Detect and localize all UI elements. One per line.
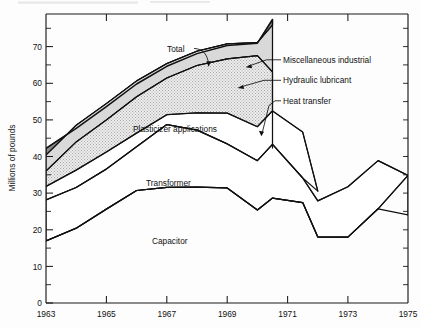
y-tick-60: 60 (33, 78, 43, 88)
x-tick-1965: 1965 (97, 309, 116, 319)
x-tick-1971: 1971 (278, 309, 297, 319)
y-tick-40: 40 (33, 152, 43, 162)
label-miscellaneous-industrial: Miscellaneous industrial (283, 55, 371, 65)
label-heat-transfer: Heat transfer (283, 96, 331, 106)
y-tick-30: 30 (33, 188, 43, 198)
label-hydraulic-lubricant: Hydraulic lubricant (283, 75, 352, 85)
y-tick-50: 50 (33, 115, 43, 125)
y-tick-20: 20 (33, 225, 43, 235)
scan-artifact (18, 1, 210, 4)
y-tick-70: 70 (33, 42, 43, 52)
x-tick-1973: 1973 (339, 309, 358, 319)
x-tick-labels: 1963 1965 1967 1969 1971 1973 1975 (37, 309, 418, 319)
x-tick-1967: 1967 (157, 309, 176, 319)
x-tick-1963: 1963 (37, 309, 56, 319)
y-tick-0: 0 (37, 298, 42, 308)
label-transformer: Transformer (146, 178, 191, 188)
label-capacitor: Capacitor (152, 236, 188, 246)
y-tick-labels: 0 10 20 30 40 50 60 70 (33, 42, 43, 308)
x-tick-1975: 1975 (399, 309, 418, 319)
y-tick-10: 10 (33, 262, 43, 272)
chart-svg: 0 10 20 30 40 50 60 70 1963 1965 1967 19… (0, 0, 421, 328)
label-plasticizer-applications: Plasticizer applications (133, 124, 217, 134)
label-total: Total (167, 44, 185, 54)
chart-figure: 0 10 20 30 40 50 60 70 1963 1965 1967 19… (0, 0, 421, 328)
x-tick-1969: 1969 (218, 309, 237, 319)
y-axis-title: Millions of pounds (7, 124, 17, 191)
